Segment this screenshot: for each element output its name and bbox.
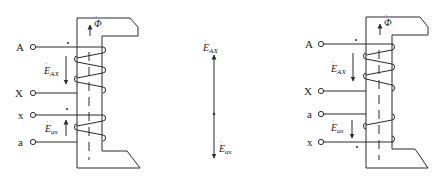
svg-text:·: · [220,138,222,146]
svg-text:·: · [45,60,47,68]
terminal-label: X [15,87,23,99]
terminal-label: a [18,136,23,148]
terminal-circle [30,44,35,49]
terminal-circle [30,112,35,117]
svg-text:·: · [332,117,334,125]
terminal-label: A [16,41,24,53]
terminal-circle [318,111,323,116]
terminal-circle [318,88,323,93]
terminal-A: A [16,41,103,53]
terminal-a: a [307,108,366,120]
secondary-winding [75,115,106,141]
polarity-dot [67,42,69,44]
terminal-label: X [304,85,312,97]
terminal-a: a [18,136,77,148]
terminal-A: A [305,38,393,50]
transformer-diagram: Φ · A X x a [0,0,440,181]
terminal-circle [30,139,35,144]
terminal-x: x [307,136,393,148]
terminal-label: x [307,136,313,148]
left-transformer: Φ · A X x a [15,13,140,168]
svg-text:·: · [332,58,334,66]
polarity-dot [355,39,357,41]
terminal-circle [318,139,323,144]
terminal-x: x [18,109,103,121]
iron-core [366,17,428,168]
right-transformer: Φ · A X a x [304,12,428,168]
terminal-label: a [307,108,312,120]
iron-core [77,18,140,168]
polarity-dot [66,108,68,110]
terminal-X: X [304,85,366,97]
flux-dot: · [95,13,97,21]
svg-text:·: · [385,12,387,20]
primary-winding [75,47,106,93]
phasor-diagram: EAX · Eax · [202,37,233,158]
terminal-label: x [18,109,24,121]
svg-text:·: · [204,37,206,45]
terminal-X: X [15,87,77,99]
phasor-origin [213,113,215,115]
terminal-label: A [305,38,313,50]
terminal-circle [318,41,323,46]
polarity-dot [356,146,358,148]
terminal-circle [30,90,35,95]
svg-text:·: · [46,118,48,126]
